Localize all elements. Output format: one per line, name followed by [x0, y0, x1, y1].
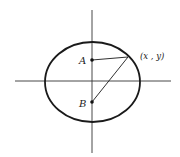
focus-a-dot: [90, 58, 94, 62]
segment-b-to-point: [92, 57, 128, 102]
segment-a-to-point: [92, 57, 128, 60]
focus-b-label: B: [78, 98, 86, 109]
ellipse-diagram: A B (x , y): [0, 0, 180, 157]
focus-b-dot: [90, 100, 94, 104]
focus-a-label: A: [78, 55, 86, 66]
point-xy-label: (x , y): [140, 51, 164, 61]
ellipse-curve: [45, 42, 140, 122]
